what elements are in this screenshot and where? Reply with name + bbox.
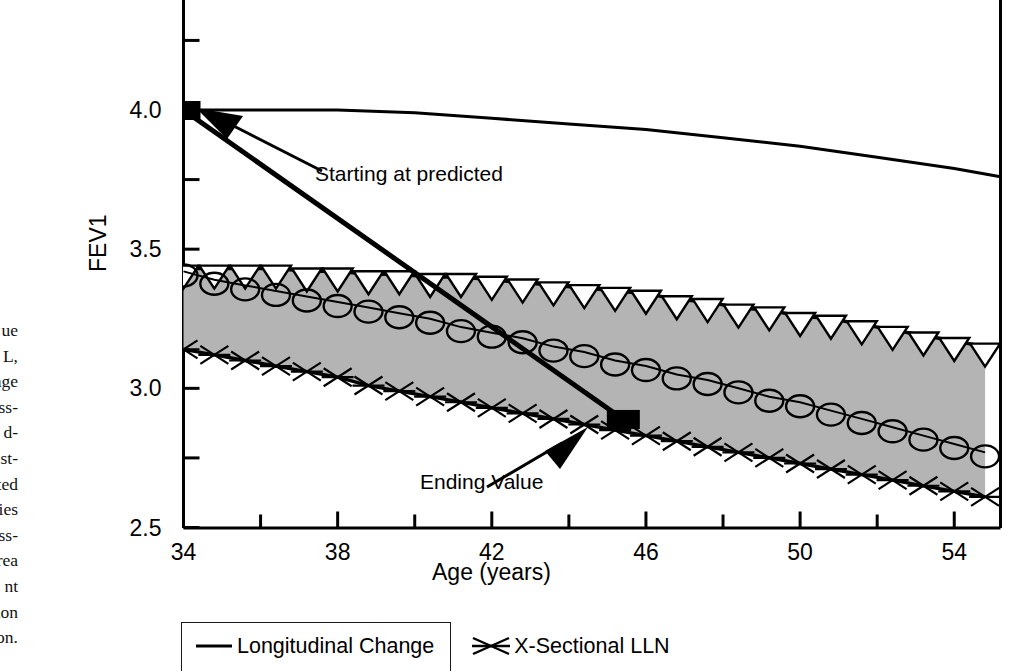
- legend-item-x-sectional-lln[interactable]: X-Sectional LLN: [468, 622, 669, 670]
- fev1-decline-chart: 2.53.03.54.0 343842465054: [0, 0, 1015, 600]
- x-axis-title: Age (years): [432, 559, 551, 585]
- y-tick-label: 3.5: [130, 236, 162, 262]
- starting-value-marker: [168, 101, 201, 120]
- x-tick-label: 34: [171, 539, 197, 565]
- line-marker-icon: [191, 634, 237, 658]
- x-marker-icon: [468, 634, 514, 658]
- x-tick-label: 54: [941, 539, 967, 565]
- series-predicted-normal: [184, 110, 1001, 177]
- ending-value-label: Ending Value: [420, 470, 543, 493]
- x-axis-ticks: [184, 512, 955, 528]
- x-tick-label: 46: [633, 539, 659, 565]
- starting-at-predicted-label: Starting at predicted: [315, 162, 503, 185]
- ending-value-marker: [607, 410, 640, 429]
- y-tick-label: 4.0: [130, 97, 162, 123]
- y-axis-tick-labels: 2.53.03.54.0: [130, 97, 162, 541]
- legend-label-longitudinal-change: Longitudinal Change: [237, 634, 434, 659]
- annotation-starting-at-predicted: Starting at predicted: [196, 108, 503, 185]
- annotation-ending-value: Ending Value: [420, 427, 588, 493]
- y-tick-label: 3.0: [130, 375, 162, 401]
- chart-legend: Longitudinal Change X-Sectional LLN: [181, 622, 881, 670]
- x-axis-tick-labels: 343842465054: [171, 539, 968, 565]
- legend-label-x-sectional-lln: X-Sectional LLN: [514, 634, 669, 659]
- legend-items: Longitudinal Change X-Sectional LLN: [181, 622, 670, 670]
- y-tick-label: 2.5: [130, 515, 162, 541]
- x-tick-label: 38: [325, 539, 351, 565]
- chart-svg: 2.53.03.54.0 343842465054: [0, 0, 1015, 600]
- y-axis-title: FEV1: [85, 214, 111, 272]
- x-tick-label: 50: [787, 539, 813, 565]
- legend-item-longitudinal-change[interactable]: Longitudinal Change: [191, 622, 434, 670]
